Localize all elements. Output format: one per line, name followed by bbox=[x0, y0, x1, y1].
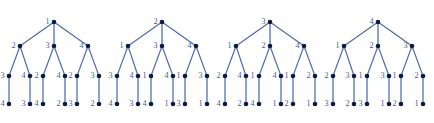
node-level2-6[interactable] bbox=[97, 74, 102, 79]
edge-level1-to-level2-3 bbox=[43, 46, 54, 76]
node-label-level3-6: 1 bbox=[306, 99, 310, 108]
node-level2-2[interactable] bbox=[28, 74, 33, 79]
node-level2-1[interactable] bbox=[7, 74, 12, 79]
node-level1-3[interactable] bbox=[86, 44, 91, 49]
node-level2-3[interactable] bbox=[365, 74, 370, 79]
node-level3-5[interactable] bbox=[183, 102, 188, 107]
node-level3-6[interactable] bbox=[205, 102, 210, 107]
node-level3-1[interactable] bbox=[7, 102, 12, 107]
node-label-level2-4: 4 bbox=[272, 71, 276, 80]
node-level1-3[interactable] bbox=[302, 44, 307, 49]
edge-level1-to-level2-1 bbox=[225, 46, 236, 76]
node-level1-3[interactable] bbox=[194, 44, 199, 49]
edge-level1-to-level2-1 bbox=[333, 46, 344, 76]
node-level2-2[interactable] bbox=[244, 74, 249, 79]
node-level2-4[interactable] bbox=[171, 74, 176, 79]
node-label-level3-5: 2 bbox=[392, 99, 396, 108]
node-level1-2[interactable] bbox=[376, 44, 381, 49]
node-level3-2[interactable] bbox=[28, 102, 33, 107]
node-label-level3-1: 4 bbox=[108, 99, 112, 108]
node-root[interactable] bbox=[160, 20, 165, 25]
node-level3-5[interactable] bbox=[291, 102, 296, 107]
node-label-root: 2 bbox=[153, 17, 157, 26]
node-label-level3-3: 4 bbox=[142, 99, 146, 108]
edge-level1-to-level2-5 bbox=[293, 46, 304, 76]
edge-level1-to-level2-3 bbox=[259, 46, 270, 76]
node-level2-1[interactable] bbox=[223, 74, 228, 79]
node-label-level3-3: 4 bbox=[250, 99, 254, 108]
node-level3-3[interactable] bbox=[41, 102, 46, 107]
node-level1-2[interactable] bbox=[160, 44, 165, 49]
node-level3-2[interactable] bbox=[136, 102, 141, 107]
edge-level1-to-level2-3 bbox=[151, 46, 162, 76]
node-label-level3-2: 3 bbox=[129, 99, 133, 108]
node-label-level2-4: 4 bbox=[56, 71, 60, 80]
node-label-level2-2: 4 bbox=[237, 71, 241, 80]
node-level3-1[interactable] bbox=[223, 102, 228, 107]
node-level2-3[interactable] bbox=[41, 74, 46, 79]
node-level3-3[interactable] bbox=[149, 102, 154, 107]
node-root[interactable] bbox=[268, 20, 273, 25]
node-level2-1[interactable] bbox=[115, 74, 120, 79]
node-level3-4[interactable] bbox=[63, 102, 68, 107]
edge-level1-to-level2-5 bbox=[185, 46, 196, 76]
node-level3-6[interactable] bbox=[97, 102, 102, 107]
node-level2-5[interactable] bbox=[291, 74, 296, 79]
node-level2-6[interactable] bbox=[421, 74, 426, 79]
node-level1-2[interactable] bbox=[268, 44, 273, 49]
node-level1-1[interactable] bbox=[126, 44, 131, 49]
node-level2-3[interactable] bbox=[149, 74, 154, 79]
node-level3-4[interactable] bbox=[279, 102, 284, 107]
node-level3-5[interactable] bbox=[399, 102, 404, 107]
node-level2-6[interactable] bbox=[205, 74, 210, 79]
node-level2-2[interactable] bbox=[352, 74, 357, 79]
node-level2-1[interactable] bbox=[331, 74, 336, 79]
node-label-level3-6: 2 bbox=[90, 99, 94, 108]
node-level2-5[interactable] bbox=[183, 74, 188, 79]
node-level3-3[interactable] bbox=[365, 102, 370, 107]
node-level1-2[interactable] bbox=[52, 44, 57, 49]
node-label-level2-6: 2 bbox=[306, 71, 310, 80]
node-label-level2-5: 1 bbox=[392, 71, 396, 80]
node-level2-4[interactable] bbox=[279, 74, 284, 79]
node-level3-4[interactable] bbox=[387, 102, 392, 107]
node-level1-1[interactable] bbox=[234, 44, 239, 49]
node-level2-6[interactable] bbox=[313, 74, 318, 79]
node-level3-3[interactable] bbox=[257, 102, 262, 107]
node-label-level3-1: 3 bbox=[324, 99, 328, 108]
node-label-level2-6: 2 bbox=[414, 71, 418, 80]
node-label-level1-2: 2 bbox=[261, 41, 265, 50]
node-level3-6[interactable] bbox=[421, 102, 426, 107]
node-label-level2-1: 2 bbox=[324, 71, 328, 80]
node-level3-2[interactable] bbox=[352, 102, 357, 107]
node-level3-2[interactable] bbox=[244, 102, 249, 107]
node-level1-1[interactable] bbox=[18, 44, 23, 49]
node-label-level3-3: 3 bbox=[358, 99, 362, 108]
edge-level1-to-level2-3 bbox=[367, 46, 378, 76]
node-level3-4[interactable] bbox=[171, 102, 176, 107]
node-label-level3-1: 4 bbox=[216, 99, 220, 108]
tree-diagram-canvas: 1234342423434232213434141343413131242414… bbox=[0, 0, 434, 123]
node-level2-2[interactable] bbox=[136, 74, 141, 79]
node-label-level1-1: 2 bbox=[11, 41, 15, 50]
node-label-level3-3: 4 bbox=[34, 99, 38, 108]
node-level2-3[interactable] bbox=[257, 74, 262, 79]
node-level1-3[interactable] bbox=[410, 44, 415, 49]
node-label-level3-1: 4 bbox=[0, 99, 4, 108]
node-level1-1[interactable] bbox=[342, 44, 347, 49]
node-level2-4[interactable] bbox=[387, 74, 392, 79]
node-label-level3-2: 2 bbox=[345, 99, 349, 108]
node-level2-5[interactable] bbox=[399, 74, 404, 79]
node-level3-5[interactable] bbox=[75, 102, 80, 107]
node-root[interactable] bbox=[52, 20, 57, 25]
node-level3-6[interactable] bbox=[313, 102, 318, 107]
node-label-level1-2: 2 bbox=[369, 41, 373, 50]
node-label-level2-4: 4 bbox=[164, 71, 168, 80]
node-level2-4[interactable] bbox=[63, 74, 68, 79]
node-label-level2-3: 2 bbox=[34, 71, 38, 80]
node-root[interactable] bbox=[376, 20, 381, 25]
node-label-level3-6: 1 bbox=[414, 99, 418, 108]
node-level3-1[interactable] bbox=[331, 102, 336, 107]
node-level3-1[interactable] bbox=[115, 102, 120, 107]
node-level2-5[interactable] bbox=[75, 74, 80, 79]
